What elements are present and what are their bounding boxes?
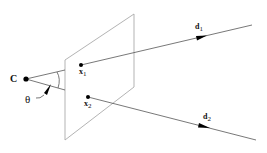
- d1-label-sub: 1: [199, 25, 203, 33]
- camera-center-point: [23, 76, 28, 81]
- ray-d2-line: [88, 97, 256, 140]
- diagram-canvas: [0, 0, 267, 153]
- theta-label: θ: [25, 94, 30, 105]
- d1-label: d1: [195, 23, 203, 33]
- theta-pointer-line: [36, 95, 44, 98]
- arrow-d1-icon: [196, 36, 207, 41]
- x2-label-sub: 2: [88, 102, 92, 110]
- x1-label-sub: 1: [83, 70, 87, 78]
- theta-pointer-arrow-icon: [44, 84, 51, 95]
- x2-label: x2: [84, 100, 92, 110]
- angle-arc: [57, 72, 59, 88]
- arrow-d2-icon: [198, 123, 210, 128]
- ray-d1-line: [81, 25, 252, 65]
- image-plane: [65, 14, 134, 140]
- d2-label-sub: 2: [207, 115, 211, 123]
- camera-center-label: C: [10, 74, 17, 84]
- x1-label: x1: [79, 68, 87, 78]
- d2-label: d2: [203, 113, 211, 123]
